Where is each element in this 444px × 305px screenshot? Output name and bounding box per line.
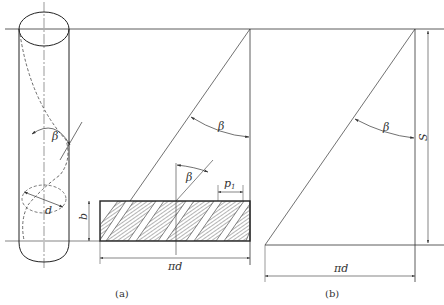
label-pid-b: πd [333,262,348,275]
label-b: b [77,213,90,220]
label-beta-top-a: β [217,120,224,133]
label-beta-strip: β [185,171,192,184]
caption-a: (a) [115,288,129,299]
label-p1: p1 [224,177,236,191]
beta-arc-cylinder [32,128,70,145]
strip-helix-line [176,160,213,201]
label-beta-b: β [382,121,389,134]
label-S: S [417,133,430,141]
helix-unrolling-diagram: d β β β p1 b [0,0,444,305]
hatched-strip: β p1 b πd [77,160,262,273]
label-d: d [45,204,52,217]
helix-tangent [60,122,82,160]
unrolled-triangle-b: β S πd [265,29,444,282]
caption-b: (b) [325,288,339,299]
label-beta-cylinder: β [51,130,58,143]
label-pid-a: πd [167,260,182,273]
diameter-dimension [24,192,63,207]
cylinder: d β [19,2,82,268]
